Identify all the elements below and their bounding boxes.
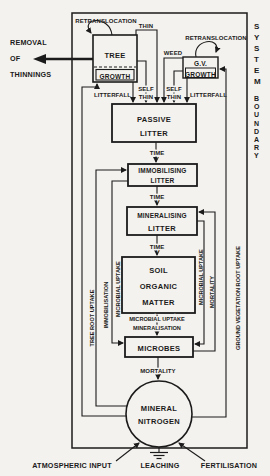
fertilisation-label: FERTILISATION	[201, 461, 257, 470]
passive-litter-label-2: LITTER	[140, 129, 168, 138]
self-thin-gv-label-2: THIN	[167, 94, 181, 100]
atmospheric-input-label: ATMOSPHERIC INPUT	[32, 461, 112, 470]
tree-growth-box: TREE GROWTH	[93, 35, 137, 82]
mineralising-litter-label-2: LITTER	[148, 224, 176, 233]
immobilising-litter-label-1: IMMOBILISING	[138, 167, 186, 174]
retranslocation-tree-label: RETRANSLOCATION	[75, 18, 136, 24]
leaching-label: LEACHING	[140, 461, 179, 470]
immobilising-litter-label-2: LITTER	[151, 177, 175, 184]
som-label-3: MATTER	[142, 298, 175, 307]
microbes-label: MICROBES	[138, 344, 181, 353]
mortality-centre-label: MORTALITY	[140, 368, 175, 374]
som-label-1: SOIL	[149, 266, 168, 275]
system-boundary-word-2: BOUNDARY	[254, 95, 258, 161]
ground-symbol-icon	[150, 453, 168, 459]
mineralising-litter-box: MINERALISING LITTER	[127, 207, 197, 235]
immobilising-litter-box: IMMOBILISING LITTER	[128, 164, 197, 186]
som-label-2: ORGANIC	[140, 282, 178, 291]
gv-root-uptake-label: GROUND VEGETATION ROOT UPTAKE	[235, 246, 241, 350]
immobilisation-label: IMMOBILISATION	[103, 282, 109, 329]
passive-litter-box: PASSIVE LITTER	[112, 104, 196, 142]
removal-label-2: OF	[10, 54, 21, 63]
tree-box-label-2: GROWTH	[100, 73, 131, 80]
thin-label: THIN	[139, 23, 153, 29]
tree-root-uptake-label: TREE ROOT UPTAKE	[89, 289, 95, 346]
weed-label: WEED	[164, 50, 183, 56]
microbes-box: MICROBES	[125, 337, 193, 357]
microbial-uptake-right-label: MICROBIAL UPTAKE	[198, 249, 204, 305]
microbial-uptake-centre-label: MICROBIAL UPTAKE	[129, 316, 185, 322]
litterfall-gv-label: LITTERFALL	[190, 92, 227, 98]
mineral-nitrogen-circle: MINERAL NITROGEN	[126, 381, 192, 447]
self-thin-tree-label-2: THIN	[139, 94, 153, 100]
litterfall-tree-label: LITTERFALL	[94, 92, 131, 98]
mineralisation-label: MINERALISATION	[133, 325, 181, 331]
removal-label-1: REMOVAL	[10, 38, 47, 47]
retranslocation-gv-label: RETRANSLOCATION	[185, 35, 246, 41]
time-label-2: TIME	[150, 194, 165, 200]
removal-label-3: THINNINGS	[10, 70, 51, 79]
gv-box-label-2: GROWTH	[185, 71, 216, 78]
tree-box-label-1: TREE	[104, 51, 125, 60]
microbial-uptake-left-label: MICROBIAL UPTAKE	[115, 261, 121, 317]
removal-arrowhead-icon	[33, 54, 46, 64]
time-label-3: TIME	[150, 244, 165, 250]
time-label-1: TIME	[150, 150, 165, 156]
system-boundary-word-1: SYSTEM	[254, 21, 258, 87]
soil-organic-matter-box: SOIL ORGANIC MATTER	[122, 257, 195, 313]
self-thin-tree-label-1: SELF	[138, 86, 154, 92]
mineral-nitrogen-label-1: MINERAL	[141, 404, 177, 413]
self-thin-gv-label-1: SELF	[166, 86, 182, 92]
nitrogen-cycle-diagram: TREE GROWTH G.V. GROWTH PASSIVE LITTER I…	[0, 0, 270, 476]
mineral-nitrogen-label-2: NITROGEN	[138, 417, 180, 426]
mortality-right-label: MORTALITY	[209, 276, 215, 308]
gv-box-label-1: G.V.	[194, 60, 207, 67]
gv-growth-box: G.V. GROWTH	[183, 57, 218, 78]
mineralising-litter-label-1: MINERALISING	[137, 212, 187, 219]
passive-litter-label-1: PASSIVE	[137, 115, 171, 124]
